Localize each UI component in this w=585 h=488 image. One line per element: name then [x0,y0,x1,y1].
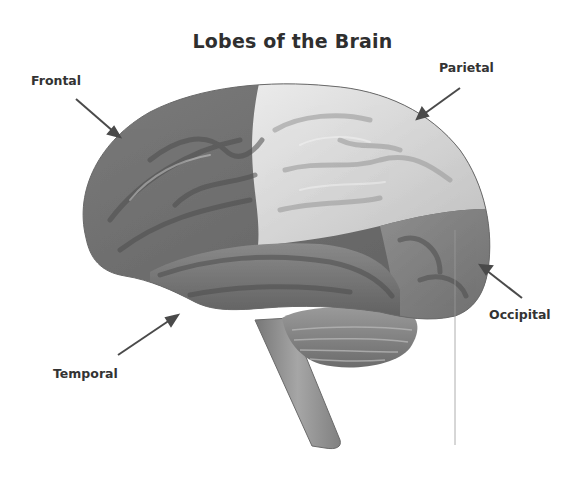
parietal-arrow [424,88,460,114]
brain-illustration [0,0,585,488]
label-parietal: Parietal [439,60,494,75]
label-occipital: Occipital [489,307,551,322]
label-temporal: Temporal [53,366,118,381]
label-frontal: Frontal [31,73,81,88]
occipital-arrow [486,270,522,298]
temporal-arrow [118,320,170,355]
frontal-arrow [76,99,114,132]
